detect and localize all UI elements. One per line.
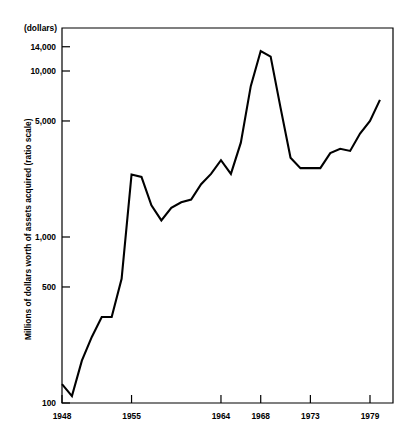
plot-frame xyxy=(62,28,393,403)
y-axis-unit-note: (dollars) xyxy=(24,23,57,33)
y-tick-label: 100 xyxy=(42,398,56,408)
x-tick-label: 1948 xyxy=(53,411,72,421)
x-tick-label: 1973 xyxy=(301,411,320,421)
y-axis-tick-labels: 14,00010,0005,0001,000500100 xyxy=(30,42,56,408)
x-axis-ticks xyxy=(62,395,370,403)
line-chart: 14,00010,0005,0001,000500100 19481955196… xyxy=(0,0,414,444)
y-tick-label: 500 xyxy=(42,282,56,292)
y-tick-label: 5,000 xyxy=(35,116,56,126)
y-axis-title: Millions of dollars worth of assets acqu… xyxy=(23,118,33,340)
y-tick-label: 14,000 xyxy=(30,42,56,52)
y-tick-label: 1,000 xyxy=(35,232,56,242)
chart-container: 14,00010,0005,0001,000500100 19481955196… xyxy=(0,0,414,444)
data-series-group xyxy=(62,51,380,396)
x-tick-label: 1968 xyxy=(251,411,270,421)
x-tick-label: 1964 xyxy=(212,411,231,421)
x-tick-label: 1955 xyxy=(122,411,141,421)
y-tick-label: 10,000 xyxy=(30,66,56,76)
data-line xyxy=(62,51,380,396)
y-axis-ticks xyxy=(62,47,70,403)
x-axis-tick-labels: 194819551964196819731979 xyxy=(53,411,380,421)
x-tick-label: 1979 xyxy=(361,411,380,421)
